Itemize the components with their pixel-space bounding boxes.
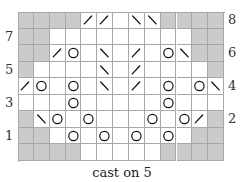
stitch-cell: [66, 111, 82, 128]
stitch-cell: [66, 128, 82, 145]
no-stitch-cell: [192, 144, 208, 161]
stitch-cell: [50, 78, 66, 95]
stitch-cell: [113, 144, 129, 161]
no-stitch-cell: [208, 62, 224, 79]
stitch-cell: [177, 78, 193, 95]
stitch-cell: [145, 111, 161, 128]
stitch-cell: [81, 78, 97, 95]
no-stitch-cell: [177, 144, 193, 161]
row-number-label: 2: [228, 112, 236, 125]
stitch-cell: [161, 29, 177, 46]
no-stitch-cell: [192, 12, 208, 29]
stitch-cell: [66, 29, 82, 46]
no-stitch-cell: [192, 128, 208, 145]
stitch-cell: [177, 62, 193, 79]
stitch-cell: [161, 62, 177, 79]
stitch-cell: [81, 62, 97, 79]
stitch-cell: [145, 78, 161, 95]
stitch-cell: [50, 95, 66, 112]
stitch-cell: [97, 78, 113, 95]
stitch-cell: [161, 128, 177, 145]
stitch-cell: [97, 95, 113, 112]
no-stitch-cell: [50, 144, 66, 161]
no-stitch-cell: [18, 45, 34, 62]
stitch-cell: [161, 111, 177, 128]
stitch-cell: [113, 78, 129, 95]
stitch-cell: [66, 45, 82, 62]
stitch-cell: [81, 111, 97, 128]
stitch-cell: [145, 144, 161, 161]
stitch-cell: [18, 78, 34, 95]
no-stitch-cell: [177, 12, 193, 29]
stitch-cell: [50, 128, 66, 145]
stitch-cell: [34, 111, 50, 128]
row-number-label: 3: [5, 96, 13, 109]
stitch-cell: [97, 128, 113, 145]
stitch-cell: [177, 95, 193, 112]
stitch-cell: [129, 78, 145, 95]
no-stitch-cell: [18, 62, 34, 79]
row-number-label: 4: [228, 79, 236, 92]
no-stitch-cell: [161, 144, 177, 161]
stitch-cell: [66, 62, 82, 79]
stitch-cell: [129, 29, 145, 46]
stitch-cell: [97, 12, 113, 29]
stitch-cell: [129, 62, 145, 79]
stitch-cell: [50, 29, 66, 46]
stitch-cell: [113, 111, 129, 128]
row-number-label: 7: [5, 30, 13, 43]
no-stitch-cell: [34, 12, 50, 29]
stitch-cell: [50, 111, 66, 128]
no-stitch-cell: [208, 111, 224, 128]
no-stitch-cell: [66, 144, 82, 161]
stitch-cell: [145, 128, 161, 145]
no-stitch-cell: [50, 12, 66, 29]
row-number-label: 1: [5, 129, 13, 142]
stitch-cell: [50, 45, 66, 62]
stitch-cell: [34, 78, 50, 95]
stitch-cell: [18, 95, 34, 112]
no-stitch-cell: [18, 12, 34, 29]
no-stitch-cell: [161, 12, 177, 29]
stitch-cell: [81, 128, 97, 145]
no-stitch-cell: [34, 128, 50, 145]
stitch-cell: [177, 45, 193, 62]
stitch-cell: [113, 45, 129, 62]
stitch-cell: [81, 29, 97, 46]
no-stitch-cell: [18, 144, 34, 161]
stitch-cell: [129, 12, 145, 29]
stitch-cell: [129, 144, 145, 161]
stitch-cell: [129, 111, 145, 128]
stitch-cell: [97, 45, 113, 62]
stitch-cell: [177, 29, 193, 46]
no-stitch-cell: [208, 128, 224, 145]
stitch-cell: [145, 29, 161, 46]
stitch-cell: [177, 128, 193, 145]
no-stitch-cell: [208, 12, 224, 29]
stitch-cell: [192, 95, 208, 112]
stitch-cell: [97, 144, 113, 161]
stitch-cell: [192, 78, 208, 95]
stitch-cell: [208, 95, 224, 112]
row-number-label: 8: [228, 13, 236, 26]
stitch-cell: [129, 128, 145, 145]
stitch-cell: [97, 29, 113, 46]
no-stitch-cell: [34, 45, 50, 62]
stitch-cell: [192, 111, 208, 128]
row-number-label: 5: [5, 63, 13, 76]
stitch-cell: [50, 62, 66, 79]
stitch-cell: [177, 111, 193, 128]
stitch-cell: [66, 95, 82, 112]
no-stitch-cell: [208, 45, 224, 62]
stitch-cell: [97, 111, 113, 128]
stitch-cell: [81, 45, 97, 62]
stitch-cell: [145, 62, 161, 79]
no-stitch-cell: [18, 29, 34, 46]
stitch-cell: [208, 78, 224, 95]
stitch-cell: [34, 62, 50, 79]
stitch-cell: [129, 45, 145, 62]
no-stitch-cell: [18, 128, 34, 145]
stitch-cell: [113, 95, 129, 112]
stitch-cell: [113, 128, 129, 145]
no-stitch-cell: [34, 144, 50, 161]
